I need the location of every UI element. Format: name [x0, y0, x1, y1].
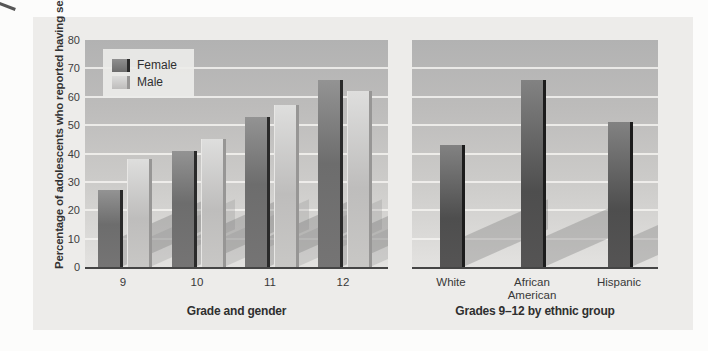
male-swatch-icon	[112, 76, 130, 89]
bar-hispanic	[608, 122, 633, 267]
page-corner-mark	[0, 2, 16, 11]
legend-label-male: Male	[137, 75, 163, 89]
bar-female-grade-12	[318, 80, 343, 267]
bar-female-grade-11	[245, 117, 270, 267]
plot-area-grade-gender: Female Male	[85, 40, 388, 267]
bar-male-grade-11	[274, 105, 299, 267]
y-tick-50: 50	[50, 118, 80, 132]
legend-label-female: Female	[137, 58, 177, 72]
gridline-70	[412, 67, 658, 69]
y-tick-20: 20	[50, 203, 80, 217]
bar-male-grade-9	[127, 159, 152, 267]
category-label-12: 12	[323, 276, 363, 289]
plot-area-ethnic-group	[412, 40, 658, 267]
category-label-9: 9	[103, 276, 143, 289]
x-axis-line-right	[412, 267, 658, 269]
x-axis-title-left: Grade and gender	[85, 304, 388, 318]
bar-african-american	[521, 80, 546, 267]
bar-female-grade-10	[172, 151, 197, 267]
legend-item-male: Male	[112, 75, 194, 89]
y-tick-70: 70	[50, 61, 80, 75]
y-tick-30: 30	[50, 175, 80, 189]
figure-panel: Percentage of adolescents who reported h…	[33, 17, 693, 330]
category-label-11: 11	[250, 276, 290, 289]
bar-male-grade-10	[201, 139, 226, 267]
x-axis-line-left	[85, 267, 388, 269]
legend: Female Male	[103, 49, 194, 98]
bar-male-grade-12	[347, 91, 372, 267]
female-swatch-icon	[112, 59, 130, 72]
category-label-white: White	[417, 276, 485, 289]
bar-female-grade-9	[98, 190, 123, 267]
y-tick-60: 60	[50, 90, 80, 104]
bar-white	[440, 145, 465, 267]
legend-item-female: Female	[112, 58, 194, 72]
category-label-hispanic: Hispanic	[585, 276, 653, 289]
category-label-10: 10	[177, 276, 217, 289]
y-tick-10: 10	[50, 232, 80, 246]
x-axis-title-right: Grades 9–12 by ethnic group	[412, 304, 658, 318]
category-label-african-american: African American	[498, 276, 566, 302]
y-tick-80: 80	[50, 33, 80, 47]
y-tick-40: 40	[50, 147, 80, 161]
y-tick-0: 0	[50, 260, 80, 274]
page: Percentage of adolescents who reported h…	[0, 0, 708, 351]
